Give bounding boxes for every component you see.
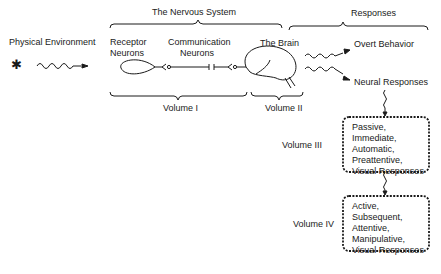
physical-environment-label: Physical Environment	[9, 37, 96, 47]
box-volume-4: Active, Subsequent, Attentive, Manipulat…	[343, 196, 429, 251]
responses-title: Responses	[351, 8, 396, 18]
receptor-neurons-label-1: Receptor	[110, 37, 147, 47]
box-3-line: Visual Responses	[352, 166, 429, 177]
the-brain-label: The Brain	[260, 38, 299, 48]
volume-4-label: Volume IV	[293, 219, 334, 229]
receptor-neuron	[121, 60, 162, 74]
brace-nervous-system	[110, 20, 282, 28]
box-4-line: Visual Responses	[352, 245, 429, 256]
box-volume-3: Passive, Immediate, Automatic, Preattent…	[343, 117, 429, 172]
neural-responses-wave	[305, 67, 343, 74]
brace-volume-1	[110, 92, 247, 100]
stimulus-wave	[37, 64, 81, 69]
communication-neurons-label-2: Neurons	[180, 48, 214, 58]
asterisk-icon: ✱	[11, 60, 22, 70]
volume-1-label: Volume I	[163, 103, 198, 113]
box-3-line: Passive,	[352, 122, 429, 133]
overt-behavior-label: Overt Behavior	[354, 39, 414, 49]
brain	[245, 46, 296, 80]
connector-wave-1	[384, 90, 387, 114]
box-3-line: Immediate,	[352, 133, 429, 144]
volume-3-label: Volume III	[282, 140, 322, 150]
receptor-neurons-label-2: Neurons	[110, 48, 144, 58]
box-4-line: Attentive,	[352, 223, 429, 234]
box-3-line: Preattentive,	[352, 155, 429, 166]
brace-responses	[289, 22, 428, 30]
box-4-line: Active,	[352, 201, 429, 212]
volume-2-label: Volume II	[265, 103, 303, 113]
box-4-line: Manipulative,	[352, 234, 429, 245]
box-4-line: Subsequent,	[352, 212, 429, 223]
nervous-system-title: The Nervous System	[152, 7, 236, 17]
neural-responses-label: Neural Responses	[354, 77, 428, 87]
box-3-line: Automatic,	[352, 144, 429, 155]
brace-volume-2	[251, 92, 303, 100]
communication-neurons-label-1: Communication	[168, 37, 231, 47]
communication-neuron	[171, 64, 228, 70]
overt-behavior-wave	[305, 53, 343, 58]
